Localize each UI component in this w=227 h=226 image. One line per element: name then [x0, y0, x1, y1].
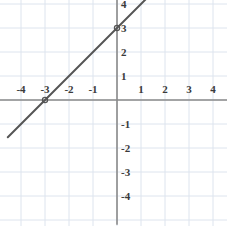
plot-canvas: [0, 0, 227, 226]
y-tick-label: 2: [121, 47, 127, 58]
y-tick-label: 3: [121, 23, 127, 34]
x-tick-label: -1: [88, 84, 97, 95]
x-tick-label: -4: [16, 84, 25, 95]
y-tick-label: -4: [121, 191, 130, 202]
y-tick-label: -1: [121, 119, 130, 130]
coordinate-plane-graph: -4-3-2-11234 4321-1-2-3-4: [0, 0, 227, 226]
x-tick-label: 4: [210, 84, 216, 95]
y-tick-label: -2: [121, 143, 130, 154]
y-tick-label: 4: [121, 0, 127, 10]
x-tick-label: -3: [40, 84, 49, 95]
x-tick-label: 1: [138, 84, 144, 95]
y-tick-label: 1: [121, 71, 127, 82]
x-tick-label: 2: [162, 84, 168, 95]
x-tick-label: 3: [186, 84, 192, 95]
y-tick-label: -3: [121, 167, 130, 178]
x-tick-label: -2: [64, 84, 73, 95]
